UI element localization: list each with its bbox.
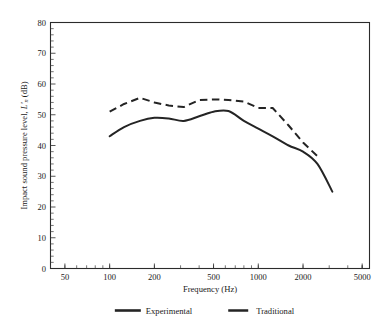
legend-label: Traditional [256, 306, 294, 316]
x-axis-title: Frequency (Hz) [183, 284, 237, 294]
x-axis-tick-label: 1000 [250, 272, 267, 282]
y-axis-tick-label: 0 [42, 264, 46, 274]
chart-legend: ExperimentalTraditional [115, 306, 295, 316]
x-axis-tick-label: 5000 [354, 272, 371, 282]
y-axis-tick-label: 30 [38, 171, 47, 181]
impact-sound-pressure-level-chart: 50100200500100020005000 0102030405060708… [0, 0, 390, 326]
x-axis-title-text: Frequency (Hz) [183, 284, 237, 294]
series-line-traditional [110, 98, 318, 156]
plot-area-border [51, 23, 370, 269]
series-line-experimental [110, 110, 333, 191]
x-axis-tick-label: 50 [61, 272, 70, 282]
y-axis-tick-label: 60 [38, 79, 47, 89]
y-axis-tick-label: 10 [38, 233, 47, 243]
x-axis-tick-label: 500 [207, 272, 220, 282]
x-axis-tick-label: 100 [103, 272, 116, 282]
y-axis-title-text: Impact sound pressure level, L'n (dB) [19, 81, 29, 209]
legend-item-experimental: Experimental [115, 306, 193, 316]
legend-item-traditional: Traditional [228, 306, 294, 316]
y-axis-tick-labels: 01020304050607080 [38, 18, 47, 274]
y-axis-tick-label: 20 [38, 202, 47, 212]
y-axis-ticks [51, 23, 56, 269]
y-axis-tick-label: 70 [38, 48, 47, 58]
x-axis-tick-labels: 50100200500100020005000 [61, 272, 371, 282]
plot-frame [51, 23, 370, 269]
y-axis-tick-label: 80 [38, 18, 47, 28]
y-axis-title-group: Impact sound pressure level, L'n (dB) [19, 81, 29, 209]
chart-figure: 50100200500100020005000 0102030405060708… [0, 0, 390, 326]
data-series-layer [110, 98, 333, 192]
x-axis-ticks [51, 264, 363, 269]
y-axis-tick-label: 40 [38, 141, 47, 151]
x-axis-tick-label: 200 [148, 272, 161, 282]
x-axis-tick-label: 2000 [295, 272, 312, 282]
y-axis-title: Impact sound pressure level, L'n (dB) [19, 81, 29, 209]
y-axis-tick-label: 50 [38, 110, 47, 120]
legend-label: Experimental [146, 306, 193, 316]
